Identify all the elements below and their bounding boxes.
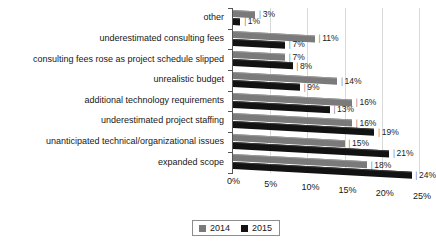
y-axis-tick — [228, 152, 233, 153]
category-label: other — [203, 12, 224, 22]
bar-2015 — [233, 101, 330, 108]
data-label-text: 19% — [382, 127, 399, 137]
bar-fill — [233, 59, 293, 69]
data-label-text: 3% — [263, 9, 275, 19]
gridline — [419, 8, 420, 173]
bar-2015 — [233, 142, 389, 149]
data-label-2015: │19% — [377, 128, 398, 137]
bar-2015 — [233, 162, 412, 169]
category-labels: otherunderestimated consulting feesconsu… — [0, 8, 228, 173]
legend-item-2015: 2015 — [241, 223, 272, 233]
legend-label-2014: 2014 — [210, 223, 230, 233]
bar-2014 — [233, 51, 285, 58]
data-label-2015: │8% — [296, 62, 313, 71]
data-label-2015: │9% — [303, 83, 320, 92]
chart-legend: 2014 2015 — [192, 220, 280, 236]
data-label-2014: │14% — [340, 77, 361, 86]
bar-2014 — [233, 31, 315, 38]
bar-2014 — [233, 134, 345, 141]
data-label-text: 14% — [345, 76, 362, 86]
y-axis-tick — [228, 70, 233, 71]
data-label-text: 8% — [300, 61, 312, 71]
y-axis-tick — [228, 29, 233, 30]
category-label: underestimated consulting fees — [99, 33, 224, 43]
bar-2014 — [233, 113, 352, 120]
bar-2015 — [233, 121, 374, 128]
data-label-text: 16% — [359, 97, 376, 107]
x-axis-labels: 0%5%10%15%20%25% — [0, 174, 432, 214]
bar-fill — [233, 101, 330, 113]
y-axis-tick — [228, 132, 233, 133]
x-axis-tick-label: 15% — [339, 185, 357, 195]
bar-fill — [233, 39, 285, 49]
category-label: consulting fees rose as project schedule… — [33, 54, 224, 64]
y-axis-tick — [228, 91, 233, 92]
bar-2015 — [233, 39, 285, 46]
x-axis-tick-label: 5% — [264, 179, 277, 189]
legend-swatch-2015-icon — [241, 225, 248, 232]
y-axis-tick — [228, 8, 233, 9]
data-label-text: 21% — [397, 148, 414, 158]
bar-2014 — [233, 72, 337, 79]
bar-fill — [233, 18, 240, 25]
data-label-text: 11% — [322, 33, 338, 43]
x-axis-tick-label: 10% — [301, 182, 319, 192]
legend-label-2015: 2015 — [252, 223, 272, 233]
y-axis-tick — [228, 111, 233, 112]
plot-area: │3%│1%│11%│7%│7%│8%│14%│9%│16%│13%│16%│1… — [233, 8, 419, 173]
x-axis-tick-label: 20% — [376, 188, 394, 198]
x-axis-tick-label: 0% — [227, 176, 240, 186]
category-label: expanded scope — [158, 157, 224, 167]
data-label-2015: │7% — [288, 40, 305, 49]
category-label: unrealistic budget — [153, 74, 224, 84]
category-label: unanticipated technical/organizational i… — [46, 136, 224, 146]
y-axis-tick — [228, 49, 233, 50]
data-label-2015: │1% — [243, 17, 260, 26]
category-label: underestimated project staffing — [101, 115, 224, 125]
data-label-text: 1% — [248, 16, 260, 26]
data-label-text: 9% — [307, 82, 319, 92]
bar-2015 — [233, 80, 300, 87]
data-label-2015: │21% — [392, 149, 413, 158]
legend-item-2014: 2014 — [199, 223, 230, 233]
data-label-2014: │11% — [318, 34, 339, 43]
bar-2015 — [233, 59, 293, 66]
bar-2015 — [233, 18, 240, 25]
data-label-2014: │16% — [355, 98, 376, 107]
legend-swatch-2014-icon — [199, 225, 206, 232]
category-label: additional technology requirements — [84, 95, 224, 105]
bar-2014 — [233, 93, 352, 100]
bar-fill — [233, 80, 300, 91]
x-axis-tick-label: 25% — [413, 191, 431, 201]
data-label-2014: │3% — [258, 10, 275, 19]
data-label-text: 7% — [292, 39, 304, 49]
bar-2014 — [233, 154, 367, 161]
